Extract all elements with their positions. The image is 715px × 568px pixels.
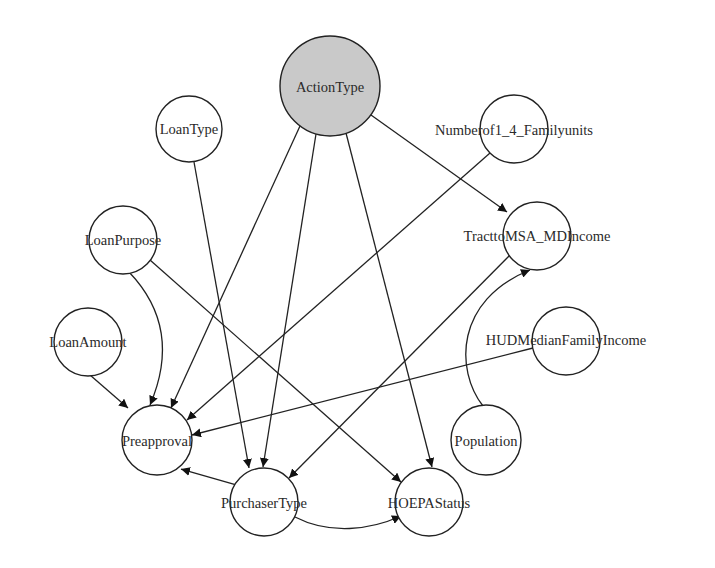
bayesian-network-diagram: ActionType LoanType Numberof1_4_Familyun… <box>0 0 715 568</box>
edge-actiontype-preapproval <box>171 126 300 408</box>
node-label-numberof1-4-familyunits: Numberof1_4_Familyunits <box>435 122 593 138</box>
edge-loanamount-preapproval <box>90 375 128 408</box>
edge-actiontype-purchasertype <box>263 134 316 467</box>
node-label-hoepastatus: HOEPAStatus <box>388 495 471 511</box>
node-preapproval[interactable]: Preapproval <box>122 405 192 475</box>
node-label-population: Population <box>455 433 519 449</box>
edge-numberof-preapproval <box>187 153 490 420</box>
node-label-purchasertype: PurchaserType <box>221 495 307 511</box>
node-label-actiontype: ActionType <box>296 79 364 95</box>
node-population[interactable]: Population <box>451 405 521 475</box>
nodes-layer: ActionType LoanType Numberof1_4_Familyun… <box>49 36 646 536</box>
node-label-loanamount: LoanAmount <box>49 334 126 350</box>
node-purchasertype[interactable]: PurchaserType <box>221 468 307 536</box>
node-loanpurpose[interactable]: LoanPurpose <box>85 206 162 274</box>
node-tracttomsa-mdincome[interactable]: TracttoMSA_MDIncome <box>464 202 611 270</box>
node-label-loantype: LoanType <box>160 121 219 137</box>
edge-purchasertype-preapproval <box>181 469 237 485</box>
node-label-loanpurpose: LoanPurpose <box>85 232 162 248</box>
node-loanamount[interactable]: LoanAmount <box>49 308 126 376</box>
node-hoepastatus[interactable]: HOEPAStatus <box>388 468 471 536</box>
edge-loanpurpose-preapproval <box>129 272 163 405</box>
edge-purchasertype-hoepastatus <box>295 516 401 529</box>
node-label-tracttomsa-mdincome: TracttoMSA_MDIncome <box>464 228 611 244</box>
node-hudmedianfamilyincome[interactable]: HUDMedianFamilyIncome <box>486 307 646 375</box>
node-loantype[interactable]: LoanType <box>156 96 222 162</box>
node-label-hudmedianfamilyincome: HUDMedianFamilyIncome <box>486 332 646 348</box>
node-actiontype[interactable]: ActionType <box>280 36 380 136</box>
edge-actiontype-hoepastatus <box>346 133 432 467</box>
node-label-preapproval: Preapproval <box>122 433 192 449</box>
node-numberof1-4-familyunits[interactable]: Numberof1_4_Familyunits <box>435 95 593 163</box>
